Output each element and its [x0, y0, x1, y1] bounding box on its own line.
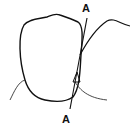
axis-line-a-a	[70, 18, 87, 109]
label-a-bottom: A	[62, 114, 70, 125]
label-a-top: A	[82, 3, 90, 14]
left-tooth-outline	[20, 14, 82, 101]
right-gum-line	[75, 82, 107, 100]
right-tooth-outline	[80, 20, 130, 55]
left-gum-line	[10, 80, 25, 100]
